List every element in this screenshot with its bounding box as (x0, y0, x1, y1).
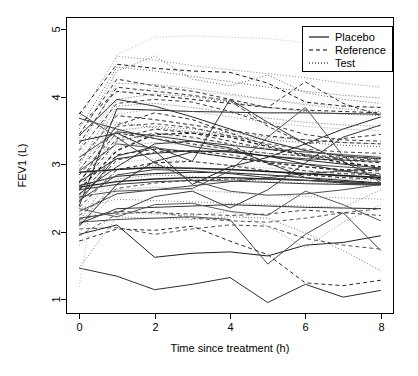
y-tick-label: 1 (50, 296, 62, 302)
legend-label: Reference (335, 44, 386, 56)
x-tick-label: 6 (302, 321, 308, 333)
y-tick-label: 4 (50, 94, 62, 100)
y-tick-label: 2 (50, 229, 62, 235)
x-tick-label: 4 (227, 321, 233, 333)
x-axis-title: Time since treatment (h) (171, 342, 290, 354)
x-tick-label: 2 (152, 321, 158, 333)
legend-label: Test (335, 57, 355, 69)
y-tick-label: 5 (50, 26, 62, 32)
y-axis-title: FEV1 (L) (16, 143, 28, 187)
chart-legend[interactable]: PlaceboReferenceTest (303, 27, 393, 72)
x-tick-label: 8 (378, 321, 384, 333)
chart-figure: 0246812345Time since treatment (h)FEV1 (… (0, 0, 418, 376)
y-tick-label: 3 (50, 161, 62, 167)
fev1-spaghetti-plot: 0246812345Time since treatment (h)FEV1 (… (0, 0, 418, 376)
legend-label: Placebo (335, 31, 375, 43)
x-tick-label: 0 (76, 321, 82, 333)
